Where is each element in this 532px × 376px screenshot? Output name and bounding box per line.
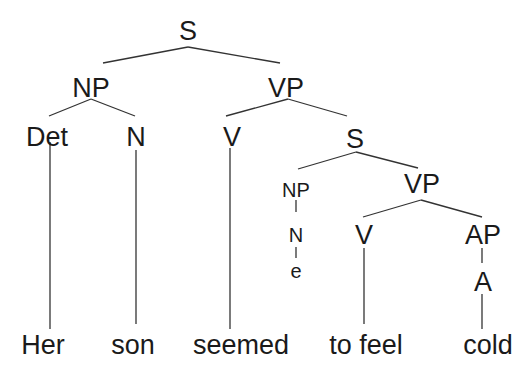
node-np-subject: NP bbox=[72, 73, 110, 103]
edge-s-vp bbox=[188, 47, 280, 63]
word-cold: cold bbox=[463, 330, 513, 360]
edge-s-np bbox=[103, 47, 188, 63]
word-seemed: seemed bbox=[193, 330, 289, 360]
node-det: Det bbox=[26, 122, 69, 152]
node-ap: AP bbox=[465, 220, 501, 250]
node-v-main: V bbox=[223, 122, 241, 152]
edge-vp2-ap bbox=[421, 200, 482, 217]
node-n-subject: N bbox=[126, 122, 146, 152]
node-n-empty: N bbox=[289, 224, 303, 246]
node-s-embedded: S bbox=[346, 124, 364, 154]
edge-s2-np bbox=[298, 152, 356, 169]
node-np-empty: NP bbox=[282, 179, 310, 201]
word-son: son bbox=[111, 330, 155, 360]
word-to-feel: to feel bbox=[329, 330, 403, 360]
node-root-s: S bbox=[179, 16, 197, 46]
node-vp-embedded: VP bbox=[404, 169, 440, 199]
node-vp-main: VP bbox=[268, 73, 304, 103]
syntax-tree-diagram: S NP VP Det N V S NP VP N e V AP A Her s… bbox=[0, 0, 532, 376]
tree-nodes: S NP VP Det N V S NP VP N e V AP A bbox=[26, 16, 501, 297]
node-v-embedded: V bbox=[355, 220, 373, 250]
tree-words: Her son seemed to feel cold bbox=[21, 330, 513, 360]
node-a: A bbox=[474, 267, 492, 297]
node-empty-e: e bbox=[290, 260, 301, 282]
edge-vp2-v bbox=[363, 200, 421, 217]
word-her: Her bbox=[21, 330, 65, 360]
edge-s2-vp bbox=[356, 152, 418, 168]
